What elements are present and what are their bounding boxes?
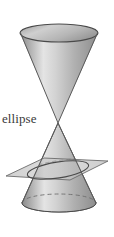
cutting-plane [6,158,108,180]
ellipse-label: ellipse [2,111,37,126]
upper-cone-rim-ellipse [20,24,98,42]
upper-cone-body [20,33,98,123]
conic-section-figure: ellipse [0,0,114,237]
cutting-plane-quad [6,158,108,180]
upper-cone [20,24,98,123]
